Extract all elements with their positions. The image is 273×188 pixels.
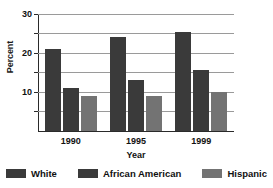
legend-item[interactable]: African American xyxy=(78,168,181,179)
legend-label: African American xyxy=(103,168,181,179)
bar[interactable] xyxy=(63,88,79,131)
x-axis-title: Year xyxy=(38,150,234,160)
y-axis-tick-label: 30 xyxy=(22,9,32,19)
bar-group xyxy=(103,14,168,131)
bar[interactable] xyxy=(175,32,191,131)
legend-label: Hispanic xyxy=(227,168,267,179)
y-axis-tick-label: 20 xyxy=(22,48,32,58)
x-axis-tick-labels: 199019951999 xyxy=(38,136,234,146)
bar-group xyxy=(38,14,103,131)
bar[interactable] xyxy=(110,37,126,130)
plot-area: 102030 xyxy=(38,14,234,132)
chart-title-cropped xyxy=(0,0,273,5)
legend-swatch-white xyxy=(6,169,26,178)
bar[interactable] xyxy=(146,96,162,131)
bar[interactable] xyxy=(81,96,97,131)
y-axis-tick-label: 10 xyxy=(22,87,32,97)
legend-swatch-hispanic xyxy=(202,169,222,178)
bar[interactable] xyxy=(45,49,61,131)
bar-group xyxy=(169,14,234,131)
bar[interactable] xyxy=(193,70,209,130)
bar[interactable] xyxy=(128,80,144,131)
x-axis-line xyxy=(38,131,234,132)
bar[interactable] xyxy=(211,92,227,131)
y-axis-title: Percent xyxy=(5,29,15,85)
x-axis-tick-label: 1999 xyxy=(169,136,234,146)
legend-label: White xyxy=(31,168,57,179)
legend-item[interactable]: Hispanic xyxy=(202,168,267,179)
bar-groups xyxy=(38,14,234,131)
x-axis-tick-label: 1990 xyxy=(38,136,103,146)
legend-swatch-african-american xyxy=(78,169,98,178)
legend-item[interactable]: White xyxy=(6,168,57,179)
bar-chart: Percent 102030 199019951999 Year WhiteAf… xyxy=(0,0,273,188)
x-axis-tick-label: 1995 xyxy=(103,136,168,146)
chart-legend: WhiteAfrican AmericanHispanic xyxy=(6,168,267,179)
